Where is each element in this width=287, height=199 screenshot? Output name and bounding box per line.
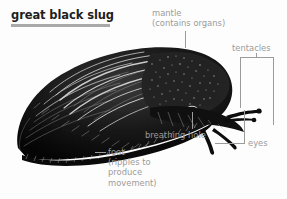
tentacles-bracket-right-drop: [273, 57, 274, 125]
foot-leader-line: [95, 152, 106, 153]
slug-diagram-figure: great black slug mantle (contains organs…: [0, 0, 287, 199]
figure-title-block: great black slug: [11, 8, 141, 27]
label-breathing-hole: breathing hole: [145, 130, 206, 140]
label-foot: foot (ripples to produce movement): [108, 147, 157, 188]
tentacles-bracket-left-drop: [240, 57, 241, 108]
tentacles-bracket-bar: [240, 57, 274, 58]
breathing-hole-leader-line: [192, 112, 193, 129]
mantle-leader-line: [185, 31, 186, 48]
label-tentacles: tentacles: [232, 43, 271, 53]
eyes-leader-line-horizontal: [215, 143, 245, 144]
label-mantle: mantle (contains organs): [152, 8, 225, 28]
title-underline-rule: [11, 24, 110, 27]
label-eyes: eyes: [248, 138, 268, 148]
page-title: great black slug: [11, 8, 141, 22]
eyes-leader-line-vertical: [244, 110, 245, 143]
